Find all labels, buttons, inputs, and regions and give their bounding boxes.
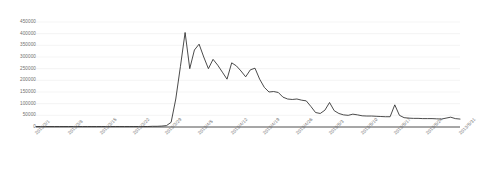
y-tick-label: 450000 [20, 20, 36, 25]
y-tick-label: 150000 [20, 90, 36, 95]
y-tick-label: 250000 [20, 66, 36, 71]
data-line-series-1 [36, 33, 460, 127]
y-tick-label: 350000 [20, 43, 36, 48]
y-tick-label: 400000 [20, 31, 36, 36]
y-tick-label: 50000 [23, 113, 36, 118]
y-tick-label: 100000 [20, 101, 36, 106]
y-tick-label: 300000 [20, 55, 36, 60]
y-tick-label: 200000 [20, 78, 36, 83]
x-axis-labels: 2013/3/12013/3/82013/3/152013/3/222013/3… [0, 130, 464, 174]
